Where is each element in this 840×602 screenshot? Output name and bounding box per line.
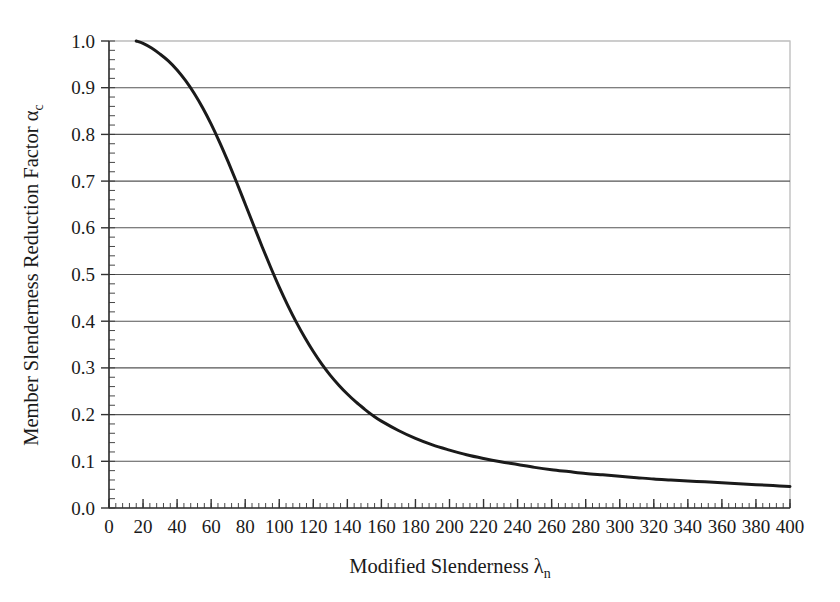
x-tick-label: 60: [202, 516, 221, 537]
x-axis-major-ticks: [109, 499, 790, 508]
chart-canvas: 0204060801001201401601802002202402602803…: [0, 0, 840, 602]
x-axis-tick-labels: 0204060801001201401601802002202402602803…: [104, 516, 804, 537]
y-tick-label: 0.1: [71, 451, 95, 472]
x-tick-label: 160: [367, 516, 396, 537]
y-tick-label: 0.3: [71, 357, 95, 378]
x-tick-label: 260: [537, 516, 566, 537]
y-tick-label: 0.9: [71, 77, 95, 98]
figure-background: [0, 0, 840, 602]
y-tick-label: 0.6: [71, 217, 95, 238]
x-tick-label: 0: [104, 516, 114, 537]
x-tick-label: 80: [236, 516, 255, 537]
x-tick-label: 280: [571, 516, 600, 537]
x-tick-label: 220: [469, 516, 498, 537]
x-tick-label: 40: [168, 516, 187, 537]
y-tick-label: 0.7: [71, 171, 95, 192]
x-tick-label: 340: [674, 516, 703, 537]
x-tick-label: 240: [503, 516, 532, 537]
y-tick-label: 0.4: [71, 311, 95, 332]
x-tick-label: 20: [134, 516, 153, 537]
x-tick-label: 100: [265, 516, 294, 537]
y-tick-label: 1.0: [71, 31, 95, 52]
y-tick-label: 0.5: [71, 264, 95, 285]
x-tick-label: 400: [776, 516, 805, 537]
x-tick-label: 140: [333, 516, 362, 537]
x-tick-label: 320: [640, 516, 669, 537]
y-tick-label: 0.0: [71, 498, 95, 519]
x-tick-label: 120: [299, 516, 328, 537]
x-tick-label: 360: [708, 516, 737, 537]
y-tick-label: 0.8: [71, 124, 95, 145]
x-tick-label: 180: [401, 516, 430, 537]
y-tick-label: 0.2: [71, 404, 95, 425]
figure-root: 0204060801001201401601802002202402602803…: [0, 0, 840, 602]
x-tick-label: 300: [606, 516, 635, 537]
x-tick-label: 380: [742, 516, 771, 537]
x-tick-label: 200: [435, 516, 464, 537]
